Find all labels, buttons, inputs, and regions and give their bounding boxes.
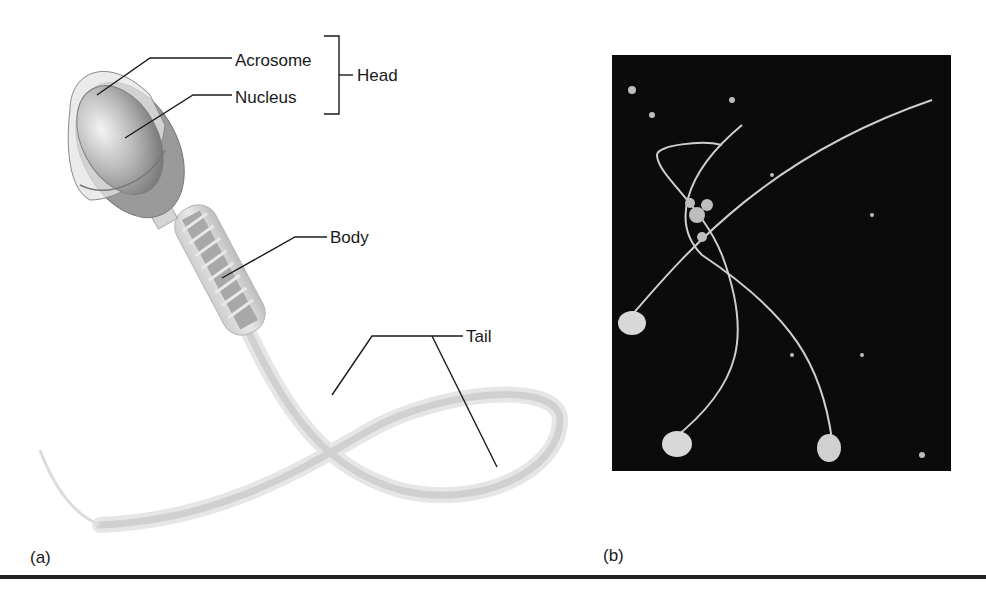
micrograph-sperm-cells <box>612 55 951 471</box>
bottom-divider <box>0 575 986 579</box>
panel-b-label: (b) <box>603 547 624 564</box>
sperm-diagram-figure: Acrosome Nucleus Head Body Tail (a) (b) <box>0 0 986 592</box>
head-label: Head <box>357 67 398 84</box>
micrograph-image <box>612 55 951 471</box>
body-shape <box>168 198 273 342</box>
tail-shape <box>40 335 560 525</box>
acrosome-label: Acrosome <box>235 52 312 69</box>
tail-label: Tail <box>466 328 492 345</box>
body-label: Body <box>330 229 369 246</box>
panel-a-label: (a) <box>30 549 51 566</box>
nucleus-label: Nucleus <box>235 89 296 106</box>
